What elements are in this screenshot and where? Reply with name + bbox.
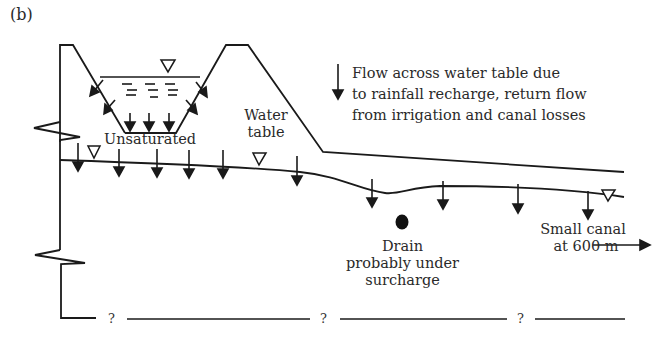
base-unknown-marker: ? — [517, 310, 524, 327]
water-table-label-line: Water — [236, 107, 296, 124]
canal-water — [100, 77, 200, 97]
small-canal-label: Small canal at 600 m — [538, 221, 628, 255]
legend-line: Flow across water table due — [352, 63, 587, 84]
drain-icon — [396, 215, 409, 230]
small-canal-label-line: Small canal — [538, 221, 628, 238]
small-canal-label-line: at 600 m — [538, 238, 628, 255]
drain-label-line: surcharge — [345, 272, 460, 289]
drain-label-line: Drain — [345, 238, 460, 255]
legend-line: from irrigation and canal losses — [352, 105, 587, 126]
drain-label: Drain probably under surcharge — [345, 238, 460, 289]
legend-text: Flow across water table due to rainfall … — [352, 63, 587, 126]
water-table-label: Water table — [236, 107, 296, 141]
canal-water-level-icon — [161, 60, 175, 72]
base-unknown-marker: ? — [320, 310, 327, 327]
drain-label-line: probably under — [345, 255, 460, 272]
water-table-level-icon — [253, 153, 266, 165]
legend-line: to rainfall recharge, return flow — [352, 84, 587, 105]
recharge-arrows — [73, 143, 593, 219]
panel-label: (b) — [10, 6, 33, 23]
legend-down-arrow-icon — [333, 64, 343, 99]
water-table-label-line: table — [236, 124, 296, 141]
water-table-level-icon — [88, 146, 100, 158]
canal-seepage-arrows — [90, 80, 207, 131]
groundwater-cross-section-diagram: (b) Flow across water table due to rainf… — [0, 0, 664, 342]
base-unknown-marker: ? — [108, 310, 115, 327]
unsaturated-label: Unsaturated — [104, 131, 196, 148]
